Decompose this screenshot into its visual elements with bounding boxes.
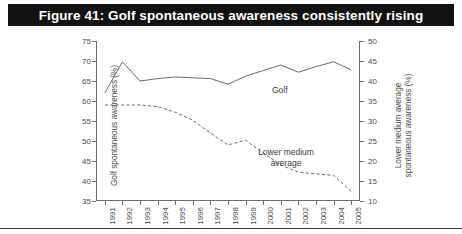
x-tick bbox=[228, 201, 229, 205]
right-tick bbox=[360, 161, 364, 162]
x-tick-label: 1998 bbox=[231, 207, 240, 225]
x-tick bbox=[140, 201, 141, 205]
x-tick bbox=[105, 201, 106, 205]
series-label-golf: Golf bbox=[272, 85, 288, 95]
x-tick-label: 1997 bbox=[213, 207, 222, 225]
x-tick-label: 2004 bbox=[337, 207, 346, 225]
x-tick bbox=[158, 201, 159, 205]
x-tick bbox=[298, 201, 299, 205]
series-plot bbox=[96, 41, 360, 201]
right-tick bbox=[360, 121, 364, 122]
left-tick-label: 65 bbox=[82, 77, 86, 86]
left-tick-label: 75 bbox=[82, 37, 86, 46]
figure-title-bar: Figure 41: Golf spontaneous awareness co… bbox=[8, 4, 454, 26]
right-tick-label: 20 bbox=[368, 157, 377, 166]
x-tick bbox=[281, 201, 282, 205]
right-tick-label: 45 bbox=[368, 57, 377, 66]
series-label-lower-medium-average: Lower medium average bbox=[238, 147, 334, 169]
left-tick-label: 35 bbox=[82, 197, 86, 206]
left-tick bbox=[92, 201, 96, 202]
plot-area: 354045505560657075 101520253035404550 19… bbox=[96, 41, 360, 201]
x-tick-label: 2001 bbox=[284, 207, 293, 225]
left-tick-label: 70 bbox=[82, 57, 86, 66]
right-tick-label: 10 bbox=[368, 197, 377, 206]
right-tick bbox=[360, 101, 364, 102]
right-tick-label: 15 bbox=[368, 177, 377, 186]
x-tick-label: 1994 bbox=[161, 207, 170, 225]
right-tick bbox=[360, 141, 364, 142]
x-tick bbox=[210, 201, 211, 205]
series-line-golf bbox=[105, 62, 351, 93]
left-tick-label: 45 bbox=[82, 157, 86, 166]
x-tick-label: 2000 bbox=[266, 207, 275, 225]
x-tick-label: 1999 bbox=[249, 207, 258, 225]
x-tick-label: 1992 bbox=[125, 207, 134, 225]
right-tick-label: 30 bbox=[368, 117, 377, 126]
right-tick-label: 25 bbox=[368, 137, 377, 146]
left-tick-label: 40 bbox=[82, 177, 86, 186]
x-tick-label: 1995 bbox=[178, 207, 187, 225]
x-tick bbox=[263, 201, 264, 205]
x-tick-label: 2002 bbox=[301, 207, 310, 225]
right-tick-label: 40 bbox=[368, 77, 377, 86]
right-tick bbox=[360, 41, 364, 42]
right-tick bbox=[360, 201, 364, 202]
x-tick-label: 2003 bbox=[319, 207, 328, 225]
lower-label-line1: Lower medium bbox=[258, 147, 314, 157]
left-tick-label: 55 bbox=[82, 117, 86, 126]
right-axis-title-line2: spontaneous awareness (%) bbox=[404, 46, 413, 206]
x-tick-label: 2005 bbox=[354, 207, 363, 225]
right-tick bbox=[360, 61, 364, 62]
x-tick bbox=[334, 201, 335, 205]
x-tick bbox=[122, 201, 123, 205]
right-tick bbox=[360, 181, 364, 182]
x-tick bbox=[316, 201, 317, 205]
x-tick-label: 1993 bbox=[143, 207, 152, 225]
x-tick-label: 1996 bbox=[196, 207, 205, 225]
right-tick-label: 50 bbox=[368, 37, 377, 46]
x-tick-label: 1991 bbox=[108, 207, 117, 225]
bottom-rule bbox=[0, 228, 462, 229]
x-tick bbox=[246, 201, 247, 205]
left-tick-label: 50 bbox=[82, 137, 86, 146]
x-tick bbox=[351, 201, 352, 205]
lower-label-line2: average bbox=[271, 158, 302, 168]
page-title: Figure 41: Golf spontaneous awareness co… bbox=[39, 8, 424, 23]
right-tick-label: 35 bbox=[368, 97, 377, 106]
right-axis-title-line1: Lower medium average bbox=[394, 46, 403, 206]
x-tick bbox=[175, 201, 176, 205]
figure-container: Figure 41: Golf spontaneous awareness co… bbox=[0, 0, 462, 234]
left-tick-label: 60 bbox=[82, 97, 86, 106]
x-tick bbox=[193, 201, 194, 205]
right-tick bbox=[360, 81, 364, 82]
